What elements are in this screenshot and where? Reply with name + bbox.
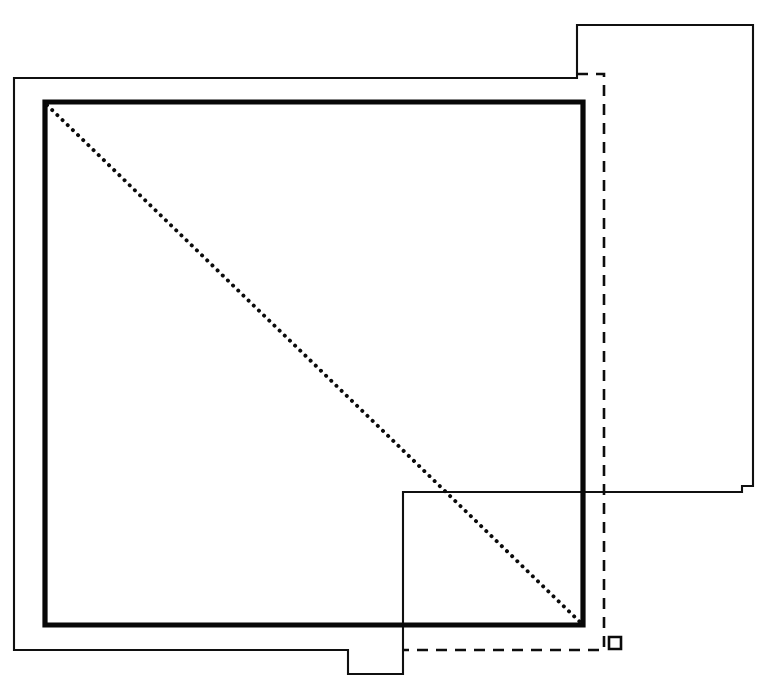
plan-svg [0, 0, 773, 682]
technical-drawing-canvas [0, 0, 773, 682]
